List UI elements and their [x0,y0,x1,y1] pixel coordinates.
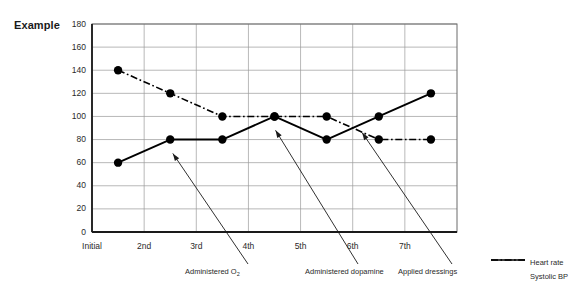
data-point [166,89,174,97]
data-point [322,135,330,143]
series-line-systolic-bp [118,93,431,162]
annotation-text: Administered O [185,267,237,276]
annotation-arrow-head [276,130,282,138]
y-tick-label: 120 [56,89,86,98]
data-point [218,135,226,143]
y-tick-label: 80 [56,135,86,144]
legend-label-heart-rate: Heart rate [530,259,563,267]
annotation-text: Applied dressings [398,267,457,276]
x-tick-label-6th: 6th [335,242,371,251]
x-tick-label-7th: 7th [387,242,423,251]
y-tick-label: 20 [56,204,86,213]
y-tick-label: 100 [56,112,86,121]
x-tick-label-initial: Initial [74,242,110,251]
plot-frame [92,24,457,232]
data-point [375,135,383,143]
data-point [427,89,435,97]
y-tick-label: 160 [56,43,86,52]
y-tick-label: 40 [56,181,86,190]
legend-swatch-solid [491,273,525,281]
x-tick-label-2nd: 2nd [126,242,162,251]
annotation-text: Administered dopamine [305,267,384,276]
series-line-heart-rate [118,70,431,139]
annotation-arrow-head [173,153,179,161]
y-tick-label: 180 [56,20,86,29]
y-tick-label: 140 [56,66,86,75]
chart-container: Example 020406080100120140160180 Initial… [0,0,574,292]
y-tick-label: 0 [56,228,86,237]
y-tick-label: 60 [56,158,86,167]
data-point [375,112,383,120]
annotation-label-0: Administered O2 [185,268,240,276]
data-point [427,135,435,143]
chart-legend: Heart rate Systolic BP [491,256,568,284]
x-tick-label-4th: 4th [230,242,266,251]
data-point [114,158,122,166]
annotation-label-1: Administered dopamine [305,268,384,276]
data-point [218,112,226,120]
legend-label-systolic-bp: Systolic BP [530,273,568,281]
data-point [270,112,278,120]
legend-item-systolic-bp: Systolic BP [491,270,568,284]
data-point [322,112,330,120]
data-point [166,135,174,143]
annotation-label-2: Applied dressings [398,268,457,276]
data-point [114,66,122,74]
x-tick-label-3rd: 3rd [178,242,214,251]
annotation-subscript: 2 [237,271,240,277]
x-tick-label-5th: 5th [283,242,319,251]
